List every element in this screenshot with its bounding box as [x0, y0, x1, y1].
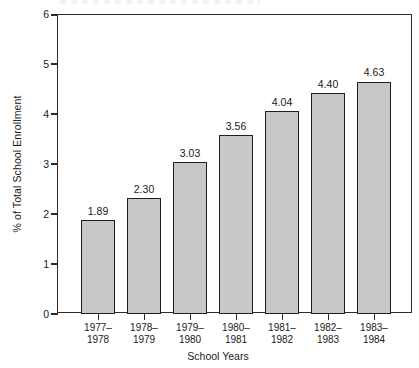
bar-value-1977-1978: 1.89	[76, 205, 120, 217]
x-category-line-1: 1983–	[350, 322, 398, 334]
x-category-line-2: 1978	[74, 334, 122, 346]
bar-value-1980-1981: 3.56	[214, 120, 258, 132]
y-tick-label-4: 4	[27, 109, 49, 120]
x-category-line-2: 1980	[166, 334, 214, 346]
x-category-line-2: 1982	[258, 334, 306, 346]
x-tick-mark-1981-1982	[282, 314, 284, 320]
x-category-line-2: 1979	[120, 334, 168, 346]
x-category-label-1981-1982: 1981– 1982	[258, 322, 306, 345]
x-tick-mark-1980-1981	[236, 314, 238, 320]
bar-1978-1979	[127, 198, 161, 314]
y-tick-label-0: 0	[27, 309, 49, 320]
y-tick-label-5: 5	[27, 59, 49, 70]
x-tick-mark-1978-1979	[144, 314, 146, 320]
x-category-label-1979-1980: 1979– 1980	[166, 322, 214, 345]
x-category-line-1: 1980–	[212, 322, 260, 334]
bar-1981-1982	[265, 111, 299, 314]
bar-1979-1980	[173, 162, 207, 315]
y-axis-title: % of Total School Enrollment	[10, 14, 24, 314]
bar-value-1981-1982: 4.04	[260, 96, 304, 108]
y-tick-label-1: 1	[27, 259, 49, 270]
x-category-label-1980-1981: 1980– 1981	[212, 322, 260, 345]
x-category-label-1978-1979: 1978– 1979	[120, 322, 168, 345]
x-category-line-1: 1978–	[120, 322, 168, 334]
x-category-line-1: 1977–	[74, 322, 122, 334]
cropped-caption-residue	[60, 0, 260, 4]
bar-value-1978-1979: 2.30	[122, 183, 166, 195]
bar-1977-1978	[81, 220, 115, 315]
x-tick-mark-1982-1983	[328, 314, 330, 320]
bar-1982-1983	[311, 93, 345, 314]
x-tick-mark-1977-1978	[98, 314, 100, 320]
x-category-label-1977-1978: 1977– 1978	[74, 322, 122, 345]
x-tick-mark-1979-1980	[190, 314, 192, 320]
y-tick-label-6: 6	[27, 9, 49, 20]
x-tick-mark-1983-1984	[374, 314, 376, 320]
y-tick-label-2: 2	[27, 209, 49, 220]
x-category-line-2: 1983	[304, 334, 352, 346]
x-category-line-1: 1981–	[258, 322, 306, 334]
y-tick-mark-0	[51, 313, 58, 315]
y-tick-label-3: 3	[27, 159, 49, 170]
x-category-line-2: 1984	[350, 334, 398, 346]
x-category-line-2: 1981	[212, 334, 260, 346]
bar-chart-figure: % of Total School Enrollment 0 1 2 3 4 5…	[0, 0, 419, 368]
bar-1983-1984	[357, 82, 391, 315]
x-category-label-1982-1983: 1982– 1983	[304, 322, 352, 345]
x-category-line-1: 1982–	[304, 322, 352, 334]
bar-value-1979-1980: 3.03	[168, 147, 212, 159]
x-category-line-1: 1979–	[166, 322, 214, 334]
bar-1980-1981	[219, 135, 253, 314]
bar-value-1982-1983: 4.40	[306, 78, 350, 90]
bar-value-1983-1984: 4.63	[352, 66, 396, 78]
x-axis-title: School Years	[57, 350, 379, 362]
x-category-label-1983-1984: 1983– 1984	[350, 322, 398, 345]
